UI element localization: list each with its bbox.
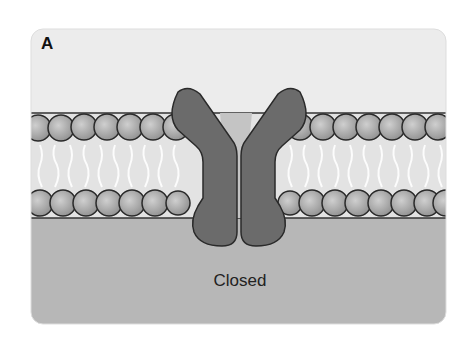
state-caption: Closed: [195, 271, 285, 291]
panel-label: A: [41, 34, 53, 54]
caption-container: Closed: [195, 0, 285, 341]
